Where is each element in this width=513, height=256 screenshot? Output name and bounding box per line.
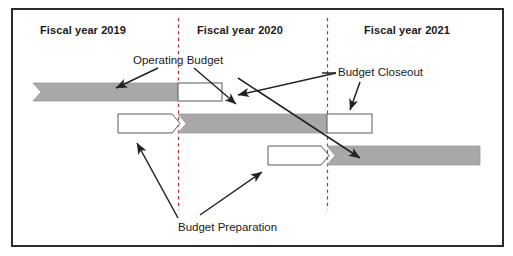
bar-segment-budget-preparation-row3	[268, 146, 329, 165]
bar-segment-operating-budget-row3	[327, 146, 480, 165]
leader-budget-preparation-to-row2	[137, 143, 178, 218]
bar-row-fy2021	[268, 146, 480, 165]
bar-row-fy2020	[118, 114, 372, 133]
figure-graphics	[0, 0, 513, 256]
bar-segment-operating-budget-row2	[178, 114, 327, 133]
leader-budget-preparation-to-row3	[200, 172, 262, 215]
leader-budget-closeout-to-row1	[238, 73, 336, 95]
bar-segment-operating-budget-row1	[33, 83, 178, 101]
bar-row-fy2019	[33, 83, 222, 101]
bar-segment-budget-preparation-row2	[118, 114, 180, 133]
leader-budget-closeout-to-row2	[350, 82, 360, 110]
bar-segment-budget-closeout-row2	[327, 114, 372, 133]
figure-root: Fiscal year 2019 Fiscal year 2020 Fiscal…	[0, 0, 513, 256]
